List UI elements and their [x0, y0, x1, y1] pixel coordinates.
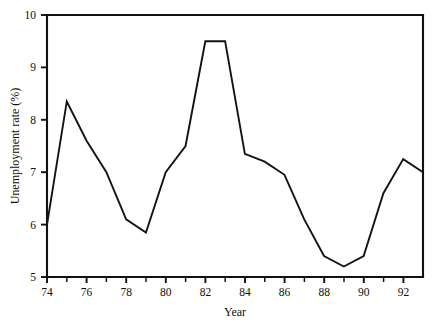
x-tick-label-74: 74 — [41, 286, 53, 298]
y-tick-label-7: 7 — [30, 166, 36, 178]
plot-frame — [47, 15, 423, 277]
y-tick-label-10: 10 — [25, 9, 37, 21]
y-tick-label-9: 9 — [30, 61, 36, 73]
x-tick-label-90: 90 — [358, 286, 370, 298]
x-tick-label-84: 84 — [239, 286, 251, 298]
x-tick-label-78: 78 — [120, 286, 132, 298]
x-tick-label-92: 92 — [398, 286, 410, 298]
y-axis-tick-labels: 10 9 8 7 6 5 — [25, 9, 37, 283]
unemployment-rate-line-chart: 10 9 8 7 6 5 — [0, 0, 438, 327]
y-axis-title: Unemployment rate (%) — [8, 88, 22, 205]
x-tick-label-88: 88 — [318, 286, 330, 298]
x-axis-tick-labels: 74 76 78 80 82 84 86 88 90 92 — [41, 286, 409, 298]
unemployment-rate-series — [47, 41, 423, 266]
x-tick-label-80: 80 — [160, 286, 172, 298]
y-tick-label-5: 5 — [30, 271, 36, 283]
x-tick-label-86: 86 — [279, 286, 291, 298]
x-tick-label-82: 82 — [200, 286, 212, 298]
x-tick-label-76: 76 — [81, 286, 93, 298]
y-tick-label-8: 8 — [30, 114, 36, 126]
chart-figure: 10 9 8 7 6 5 — [0, 0, 438, 327]
x-axis-title: Year — [224, 305, 246, 319]
y-tick-label-6: 6 — [30, 219, 36, 231]
